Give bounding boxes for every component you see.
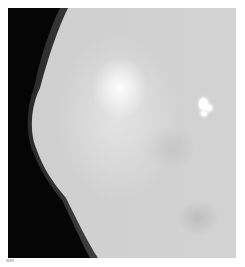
mammogram-image [8, 8, 236, 258]
calcification-marker-secondary [206, 105, 212, 111]
film-mark [6, 259, 14, 262]
breast-tissue [8, 8, 236, 258]
calcification-marker-lower [201, 111, 207, 116]
